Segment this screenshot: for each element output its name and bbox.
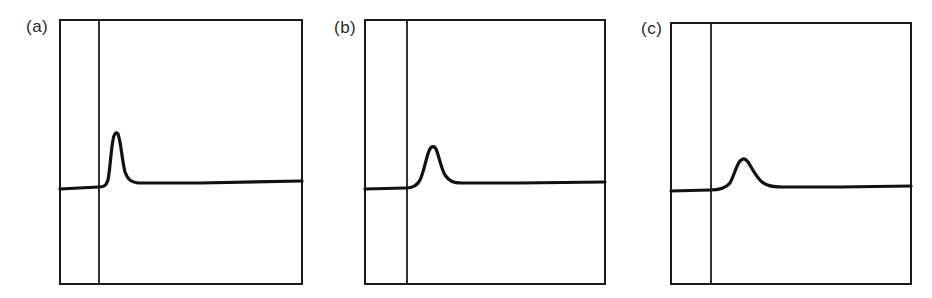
panel-c xyxy=(671,23,911,284)
panel-b-trace xyxy=(365,147,605,189)
panel-a-frame xyxy=(60,20,302,284)
plots-canvas xyxy=(0,0,932,298)
panel-b xyxy=(365,20,605,284)
panel-b-frame xyxy=(365,20,605,284)
panel-c-trace xyxy=(671,159,911,191)
panel-a-trace xyxy=(60,133,302,189)
panel-c-frame xyxy=(671,23,911,284)
figure: (a) (b) (c) xyxy=(0,0,932,298)
panel-a xyxy=(60,20,302,284)
